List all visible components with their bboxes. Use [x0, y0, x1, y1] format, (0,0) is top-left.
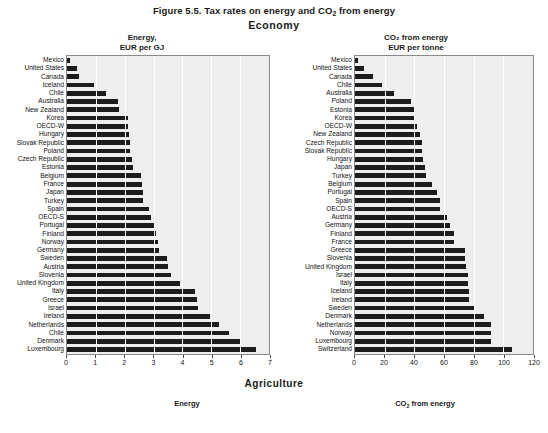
- category-label: Netherlands: [28, 321, 67, 329]
- chart-row: Germany: [67, 246, 269, 254]
- bar: [355, 173, 426, 178]
- category-label: Finland: [42, 230, 67, 238]
- x-axis-tick: [354, 355, 355, 358]
- bar: [355, 182, 432, 187]
- category-label: Chile: [49, 329, 67, 337]
- category-label: Germany: [37, 246, 67, 254]
- category-label: Portugal: [327, 188, 355, 196]
- bar: [355, 140, 422, 145]
- x-axis-tick-label: 100: [498, 359, 510, 366]
- category-label: Spain: [335, 197, 355, 205]
- bottom-caption-co2-suffix: from energy: [409, 399, 454, 408]
- x-axis-tick-label: 20: [380, 359, 388, 366]
- bar: [67, 74, 79, 79]
- bar: [67, 297, 197, 302]
- bottom-caption-energy: Energy: [174, 399, 199, 408]
- category-label: Slovak Republic: [305, 147, 355, 155]
- gridline: [414, 56, 415, 354]
- chart-row: Ireland: [67, 312, 269, 320]
- x-axis-tick-label: 4: [181, 359, 185, 366]
- bar: [355, 264, 466, 269]
- x-axis-tick: [534, 355, 535, 358]
- category-label: Norway: [330, 329, 355, 337]
- x-axis-tick-label: 0: [352, 359, 356, 366]
- category-label: Slovenia: [39, 271, 67, 279]
- x-axis-tick: [183, 355, 184, 358]
- chart-row: Austria: [67, 263, 269, 271]
- bar: [355, 198, 440, 203]
- bar: [355, 297, 469, 302]
- category-label: Iceland: [43, 81, 67, 89]
- chart-row: Canada: [67, 73, 269, 81]
- bar: [355, 281, 468, 286]
- bar: [67, 248, 159, 253]
- category-label: Ireland: [44, 312, 67, 320]
- chart-row: United Kingdom: [67, 279, 269, 287]
- gridline: [503, 56, 504, 354]
- plot-wrap-energy: MexicoUnited StatesCanadaIcelandChileAus…: [66, 55, 270, 369]
- category-label: Denmark: [37, 337, 67, 345]
- bar: [67, 116, 128, 121]
- gridline: [211, 56, 212, 354]
- category-label: Poland: [43, 147, 67, 155]
- bar: [355, 91, 394, 96]
- bar: [67, 331, 229, 336]
- x-axis-tick: [66, 355, 67, 358]
- bar: [67, 240, 158, 245]
- chart-row: Netherlands: [67, 321, 269, 329]
- category-label: Japan: [46, 188, 67, 196]
- bar: [355, 347, 512, 352]
- chart-row: Turkey: [67, 197, 269, 205]
- x-axis-tick-label: 60: [440, 359, 448, 366]
- category-label: OECD-S: [326, 205, 355, 213]
- bar: [355, 289, 469, 294]
- figure-title-prefix: Figure 5.5. Tax rates on energy and CO: [153, 5, 332, 16]
- bar: [355, 231, 454, 236]
- category-label: Austria: [43, 263, 67, 271]
- gridline: [385, 56, 386, 354]
- plot-wrap-co2: MexicoUnited StatesCanadaChileAustraliaP…: [354, 55, 534, 369]
- chart-row: United States: [67, 64, 269, 72]
- bar: [67, 165, 133, 170]
- x-axis-tick-label: 7: [268, 359, 272, 366]
- bar: [355, 83, 382, 88]
- section-title-agriculture: Agriculture: [0, 378, 548, 389]
- category-label: Austria: [331, 213, 355, 221]
- bar: [355, 215, 447, 220]
- chart-row: Sweden: [67, 254, 269, 262]
- chart-row: Chile: [67, 89, 269, 97]
- chart-title-energy-line2: EUR per GJ: [0, 43, 284, 53]
- chart-row: Norway: [67, 238, 269, 246]
- bar: [67, 198, 143, 203]
- category-label: United States: [312, 64, 355, 72]
- category-label: Czech Republic: [306, 139, 355, 147]
- category-label: Chile: [337, 81, 355, 89]
- x-axis-tick: [414, 355, 415, 358]
- bar: [67, 231, 156, 236]
- category-label: New Zealand: [313, 130, 355, 138]
- category-label: Slovak Republic: [17, 139, 67, 147]
- chart-row: Czech Republic: [67, 155, 269, 163]
- gridline: [474, 56, 475, 354]
- category-label: Turkey: [332, 172, 355, 180]
- chart-row: Estonia: [67, 163, 269, 171]
- bar: [67, 157, 132, 162]
- bar: [355, 124, 417, 129]
- plot-area-co2: MexicoUnited StatesCanadaChileAustraliaP…: [354, 55, 534, 355]
- category-label: OECD-W: [37, 122, 67, 130]
- bar: [67, 107, 119, 112]
- x-axis-tick: [153, 355, 154, 358]
- category-label: Luxembourg: [315, 337, 355, 345]
- chart-row: Belgium: [67, 172, 269, 180]
- category-label: Estonia: [42, 163, 67, 171]
- bar: [67, 190, 143, 195]
- chart-row: Iceland: [67, 81, 269, 89]
- x-axis-tick-label: 80: [470, 359, 478, 366]
- bar: [67, 140, 130, 145]
- chart-title-energy-line1: Energy,: [0, 33, 284, 43]
- category-label: United Kingdom: [17, 279, 67, 287]
- x-axis-co2: 020406080100120: [354, 355, 534, 369]
- chart-panel-co2: CO₂ from energy EUR per tonne MexicoUnit…: [284, 32, 548, 369]
- bar: [355, 66, 364, 71]
- chart-row: Denmark: [67, 337, 269, 345]
